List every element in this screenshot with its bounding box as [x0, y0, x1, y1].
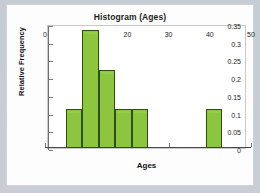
x-tick-label: 30	[165, 31, 173, 38]
histogram-bar	[132, 109, 148, 148]
bar-highlight	[134, 111, 146, 113]
bar-highlight	[117, 111, 129, 113]
x-tick-mark	[45, 143, 46, 147]
x-tick-label: 50	[247, 31, 255, 38]
x-tick-label: 20	[123, 31, 131, 38]
x-tick-label: 0	[43, 31, 47, 38]
histogram-bar	[99, 70, 115, 148]
figure-background: Histogram (Ages) 00.050.10.150.20.250.30…	[0, 0, 260, 193]
histogram-bar	[206, 109, 222, 148]
y-axis-title: Relative Frequency	[17, 12, 26, 112]
plot-area: 00.050.10.150.20.250.30.35 01020304050	[48, 26, 245, 148]
histogram-bar	[82, 30, 98, 148]
bar-highlight	[101, 72, 113, 74]
x-tick-mark	[169, 143, 170, 147]
histogram-bar	[115, 109, 131, 148]
chart-title: Histogram (Ages)	[7, 12, 253, 22]
chart-card: Histogram (Ages) 00.050.10.150.20.250.30…	[6, 4, 254, 186]
bar-highlight	[68, 111, 80, 113]
histogram-bar	[66, 109, 82, 148]
x-tick-mark	[251, 143, 252, 147]
plot-frame: 00.050.10.150.20.250.30.35 01020304050	[47, 25, 246, 149]
bar-highlight	[208, 111, 220, 113]
x-axis-title: Ages	[47, 161, 246, 170]
bar-highlight	[84, 32, 96, 34]
y-tick-mark	[49, 150, 53, 151]
x-tick-label: 40	[206, 31, 214, 38]
